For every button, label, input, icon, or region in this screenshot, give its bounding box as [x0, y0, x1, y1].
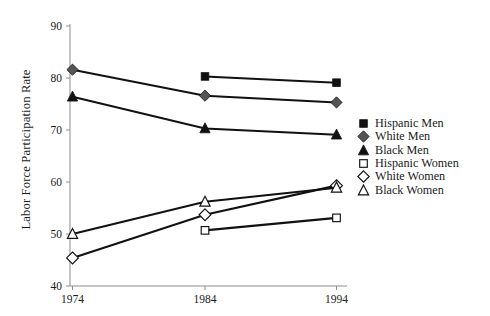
- marker-shape: [331, 97, 342, 108]
- marker-shape: [333, 214, 341, 222]
- marker-layer: [67, 64, 343, 264]
- open-diamond-icon: [357, 170, 371, 183]
- legend-item-label: Black Women: [371, 184, 444, 197]
- y-tick-label: 60: [51, 176, 63, 188]
- legend-item-label: Hispanic Men: [371, 117, 444, 130]
- legend-item-hispanic-men: Hispanic Men: [357, 117, 489, 130]
- filled-triangle-icon: [357, 144, 371, 157]
- marker-shape: [358, 131, 369, 142]
- filled-square-icon: [357, 117, 371, 130]
- marker-shape: [199, 90, 210, 101]
- y-tick-label: 80: [51, 72, 63, 84]
- y-tick-marks: [66, 26, 70, 286]
- legend-item-black-women: Black Women: [357, 183, 489, 196]
- x-tick-label: 1994: [325, 293, 348, 305]
- legend-item-hispanic-women: Hispanic Women: [357, 157, 489, 170]
- marker-white-men-1984: [199, 90, 210, 101]
- y-tick-label: 50: [51, 228, 63, 240]
- y-tick-label: 40: [51, 280, 63, 292]
- marker-white-women-1984: [199, 209, 211, 221]
- series-line-hispanic-women: [205, 218, 337, 230]
- legend-item-white-women: White Women: [357, 170, 489, 183]
- marker-shape: [201, 73, 209, 81]
- legend-item-black-men: Black Men: [357, 144, 489, 157]
- marker-shape: [199, 209, 211, 221]
- legend-item-label: Black Men: [371, 144, 429, 157]
- marker-hispanic-women-1984: [201, 227, 209, 235]
- chart-figure: Labor Force Participation Rate 405060708…: [0, 0, 490, 316]
- filled-diamond-icon: [357, 130, 371, 143]
- x-tick-label: 1984: [194, 293, 217, 305]
- marker-white-men-1974: [67, 64, 78, 75]
- marker-hispanic-women-1994: [333, 214, 341, 222]
- marker-shape: [67, 64, 78, 75]
- marker-shape: [360, 160, 368, 168]
- y-tick-label: 90: [51, 20, 63, 32]
- series-line-hispanic-men: [205, 76, 337, 82]
- marker-shape: [358, 145, 368, 155]
- open-square-icon: [357, 157, 371, 170]
- marker-shape: [360, 120, 368, 128]
- y-tick-labels: 405060708090: [51, 20, 63, 292]
- x-tick-marks: [73, 286, 337, 290]
- marker-white-men-1994: [331, 97, 342, 108]
- marker-shape: [358, 185, 368, 195]
- marker-white-women-1974: [67, 252, 79, 264]
- marker-shape: [67, 91, 77, 101]
- legend-item-label: White Men: [371, 130, 430, 143]
- y-tick-label: 70: [51, 124, 63, 136]
- marker-shape: [358, 171, 369, 182]
- marker-shape: [333, 79, 341, 87]
- marker-hispanic-men-1984: [201, 73, 209, 81]
- legend: Hispanic MenWhite MenBlack MenHispanic W…: [357, 117, 489, 197]
- axis-lines: [70, 24, 347, 286]
- x-tick-labels: 197419841994: [61, 293, 348, 305]
- open-triangle-icon: [357, 184, 371, 197]
- marker-shape: [67, 252, 79, 264]
- marker-shape: [201, 227, 209, 235]
- legend-item-label: White Women: [371, 170, 445, 183]
- marker-hispanic-men-1994: [333, 79, 341, 87]
- legend-item-label: Hispanic Women: [371, 157, 459, 170]
- marker-black-men-1974: [67, 91, 77, 101]
- x-tick-label: 1974: [61, 293, 84, 305]
- legend-item-white-men: White Men: [357, 130, 489, 143]
- axis-group: [66, 24, 347, 290]
